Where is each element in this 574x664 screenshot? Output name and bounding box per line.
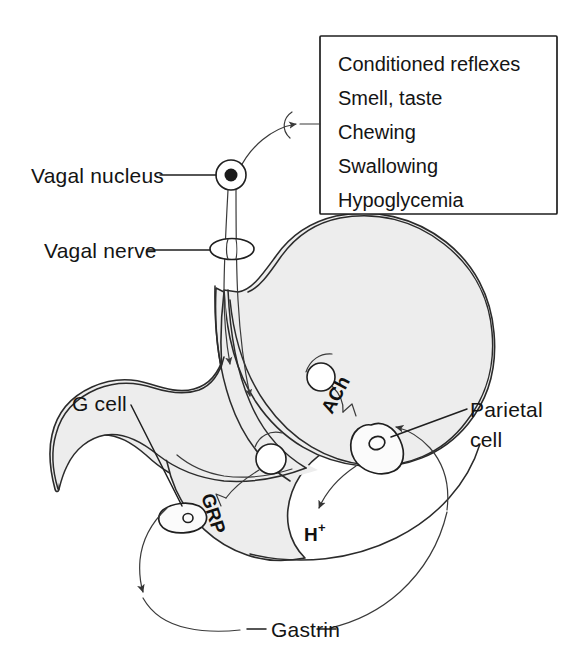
stimulus-item-2: Chewing bbox=[338, 121, 416, 143]
label-parietal-cell-line2: cell bbox=[470, 428, 502, 451]
label-vagal-nucleus: Vagal nucleus bbox=[31, 164, 164, 187]
vagal-nerve-marker bbox=[210, 239, 254, 260]
stimulus-item-3: Swallowing bbox=[338, 155, 438, 177]
label-g-cell: G cell bbox=[72, 392, 127, 415]
stimuli-to-nucleus-flow bbox=[238, 112, 320, 172]
diagram-canvas: Conditioned reflexes Smell, taste Chewin… bbox=[0, 0, 574, 664]
stimulus-item-1: Smell, taste bbox=[338, 87, 442, 109]
g-cell-body bbox=[159, 503, 207, 533]
stimulus-box: Conditioned reflexes Smell, taste Chewin… bbox=[320, 36, 557, 214]
label-vagal-nerve: Vagal nerve bbox=[44, 239, 157, 262]
label-hydrogen-ion: H bbox=[304, 524, 318, 545]
stimulus-item-0: Conditioned reflexes bbox=[338, 53, 520, 75]
stomach-outline bbox=[50, 213, 495, 560]
stimulus-item-4: Hypoglycemia bbox=[338, 189, 464, 211]
label-gastrin: Gastrin bbox=[271, 618, 340, 641]
gastric-acid-regulation-diagram: Conditioned reflexes Smell, taste Chewin… bbox=[0, 0, 574, 664]
vagal-nucleus-node bbox=[216, 160, 246, 190]
label-hydrogen-ion-charge: + bbox=[318, 520, 326, 535]
acid-secretion-arrow bbox=[319, 466, 356, 508]
label-parietal-cell-line1: Parietal bbox=[470, 398, 543, 421]
